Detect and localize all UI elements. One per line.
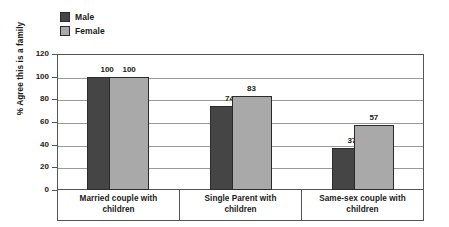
- bar-chart-figure: Male Female % Agree this is a family 120…: [0, 0, 449, 227]
- category-label: Single Parent withchildren: [205, 194, 277, 215]
- bars-layer: 10010074833757: [57, 54, 424, 190]
- bar-value-label: 100: [109, 66, 149, 74]
- bar-female-2: [354, 125, 394, 190]
- legend-item-female: Female: [60, 25, 105, 36]
- legend-label-female: Female: [75, 26, 105, 36]
- bar-female-1: [232, 96, 272, 190]
- category-label-line: children: [319, 205, 406, 216]
- legend-label-male: Male: [75, 12, 94, 22]
- category-label-line: children: [80, 205, 158, 216]
- y-tick-label: 60: [40, 118, 49, 126]
- chart-legend: Male Female: [60, 11, 105, 36]
- category-label-cell: Married couple withchildren: [58, 190, 180, 220]
- legend-item-male: Male: [60, 11, 105, 22]
- category-label-cell: Single Parent withchildren: [180, 190, 302, 220]
- category-label: Married couple withchildren: [80, 194, 158, 215]
- y-tick-label: 20: [40, 163, 49, 171]
- x-axis-category-band: Married couple withchildrenSingle Parent…: [57, 190, 424, 221]
- y-tick-label: 100: [36, 73, 49, 81]
- category-label-line: children: [205, 205, 277, 216]
- bar-value-label: 83: [232, 85, 272, 93]
- category-label-line: Single Parent with: [205, 194, 277, 205]
- y-tick-label: 120: [36, 50, 49, 58]
- legend-swatch-female: [60, 26, 70, 36]
- category-label-line: Same-sex couple with: [319, 194, 406, 205]
- y-tick-label: 40: [40, 141, 49, 149]
- y-tick-label: 80: [40, 95, 49, 103]
- category-label-line: Married couple with: [80, 194, 158, 205]
- y-axis-ticks: 120100806040200: [0, 0, 57, 190]
- bar-value-label: 57: [354, 114, 394, 122]
- bar-female-0: [109, 77, 149, 190]
- legend-swatch-male: [60, 12, 70, 22]
- category-label-cell: Same-sex couple withchildren: [302, 190, 423, 220]
- y-tick-label: 0: [45, 186, 49, 194]
- category-label: Same-sex couple withchildren: [319, 194, 406, 215]
